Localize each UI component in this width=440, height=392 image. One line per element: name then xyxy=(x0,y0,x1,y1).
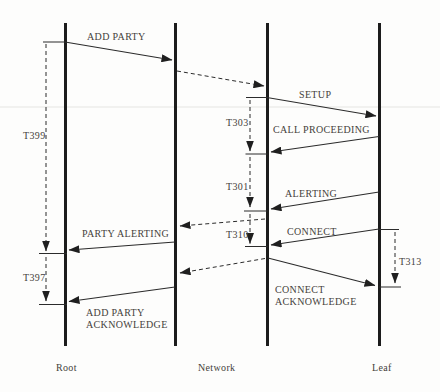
timer-t397: T397 xyxy=(23,257,67,305)
call-proceeding-arrow xyxy=(271,137,379,153)
message-party-alerting: PARTY ALERTING xyxy=(69,228,175,250)
party-alerting-arrow xyxy=(69,242,175,250)
endpoint-labels: Root Network Leaf xyxy=(56,362,392,373)
connect-label: CONNECT xyxy=(287,226,337,237)
message-alerting: ALERTING xyxy=(271,188,379,210)
t399-label: T399 xyxy=(23,130,46,141)
timer-t303: T303 xyxy=(226,100,268,154)
alerting-label: ALERTING xyxy=(285,188,337,199)
message-call-proceeding: CALL PROCEEDING xyxy=(271,124,379,153)
add-party-label: ADD PARTY xyxy=(87,31,146,42)
connect-acknowledge-label-line1: CONNECT xyxy=(275,284,325,295)
connect-acknowledge-label-line2: ACKNOWLEDGE xyxy=(275,296,357,307)
add-party-acknowledge-label-line1: ADD PARTY xyxy=(86,307,145,318)
message-connect-acknowledge: CONNECT ACKNOWLEDGE xyxy=(268,258,375,307)
propagation-add-party-arrow xyxy=(177,71,264,86)
timer-t301: T301 xyxy=(226,157,268,211)
endpoint-label-leaf: Leaf xyxy=(372,362,392,373)
message-setup: SETUP xyxy=(246,89,376,116)
t301-label: T301 xyxy=(226,181,249,192)
timer-t313: T313 xyxy=(379,230,422,288)
propagation-add-party-acknowledge-arrow xyxy=(180,259,265,274)
t310-label: T310 xyxy=(226,229,249,240)
propagation-party-alerting-arrow xyxy=(180,219,265,226)
t397-label: T397 xyxy=(23,272,46,283)
setup-label: SETUP xyxy=(299,89,331,100)
endpoint-label-root: Root xyxy=(56,362,77,373)
message-connect: CONNECT xyxy=(271,226,379,245)
add-party-acknowledge-label-line2: ACKNOWLEDGE xyxy=(86,319,168,330)
sequence-diagram-canvas: Root Network Leaf ADD PARTY SETUP CALL P… xyxy=(0,0,440,392)
t303-label: T303 xyxy=(226,117,249,128)
message-add-party-acknowledge: ADD PARTY ACKNOWLEDGE xyxy=(69,287,175,330)
endpoint-label-network: Network xyxy=(198,362,235,373)
t313-label: T313 xyxy=(399,256,422,267)
timer-t399: T399 xyxy=(23,44,67,254)
call-proceeding-label: CALL PROCEEDING xyxy=(273,124,370,135)
add-party-sequence-diagram: Root Network Leaf ADD PARTY SETUP CALL P… xyxy=(0,0,440,392)
party-alerting-label: PARTY ALERTING xyxy=(82,228,169,239)
add-party-arrow xyxy=(43,42,172,60)
message-add-party: ADD PARTY xyxy=(43,31,172,60)
add-party-acknowledge-arrow xyxy=(69,287,175,302)
connect-acknowledge-arrow xyxy=(268,258,375,286)
